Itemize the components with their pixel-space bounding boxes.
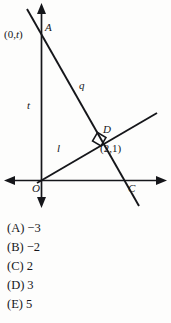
line-q [27, 9, 139, 206]
y-axis-up-arrow [37, 3, 46, 14]
line-l [37, 113, 157, 183]
answer-choice-a[interactable]: (A)−3 [7, 219, 171, 238]
answer-choice-d-value: 3 [27, 278, 33, 292]
x-axis [4, 176, 167, 185]
figure-svg [0, 0, 171, 215]
origin-label: O [32, 183, 40, 194]
y-axis-down-arrow [37, 197, 46, 208]
answer-choice-b-key: (B) [7, 240, 24, 254]
point-d-label: D [103, 124, 111, 135]
answer-choice-d-key: (D) [7, 278, 24, 292]
answer-choice-c[interactable]: (C)2 [7, 257, 171, 276]
point-a-label: A [45, 22, 52, 33]
answer-choice-a-key: (A) [7, 221, 24, 235]
geometry-figure: (0,t) A t q l D (2,1) O C [0, 0, 171, 215]
answer-choices: (A)−3 (B)−2 (C)2 (D)3 (E)5 [0, 215, 171, 323]
question-page: (0,t) A t q l D (2,1) O C (A)−3 (B)−2 (C… [0, 0, 171, 323]
answer-choice-c-value: 2 [27, 259, 33, 273]
point-a-coordinate-label: (0,t) [4, 29, 23, 40]
line-q-label: q [79, 80, 85, 91]
x-axis-left-arrow [4, 176, 15, 185]
answer-choice-c-key: (C) [7, 259, 24, 273]
answer-choice-e-key: (E) [7, 297, 23, 311]
answer-choice-b[interactable]: (B)−2 [7, 238, 171, 257]
point-d-coordinate-label: (2,1) [100, 143, 121, 154]
answer-choice-e-value: 5 [26, 297, 32, 311]
answer-choice-e[interactable]: (E)5 [7, 295, 171, 314]
answer-choice-d[interactable]: (D)3 [7, 276, 171, 295]
point-c-label: C [128, 183, 135, 194]
answer-choice-a-value: −3 [27, 221, 40, 235]
x-axis-right-arrow [156, 176, 167, 185]
answer-choice-b-value: −2 [27, 240, 40, 254]
segment-t-label: t [27, 100, 30, 111]
line-l-label: l [57, 143, 60, 154]
